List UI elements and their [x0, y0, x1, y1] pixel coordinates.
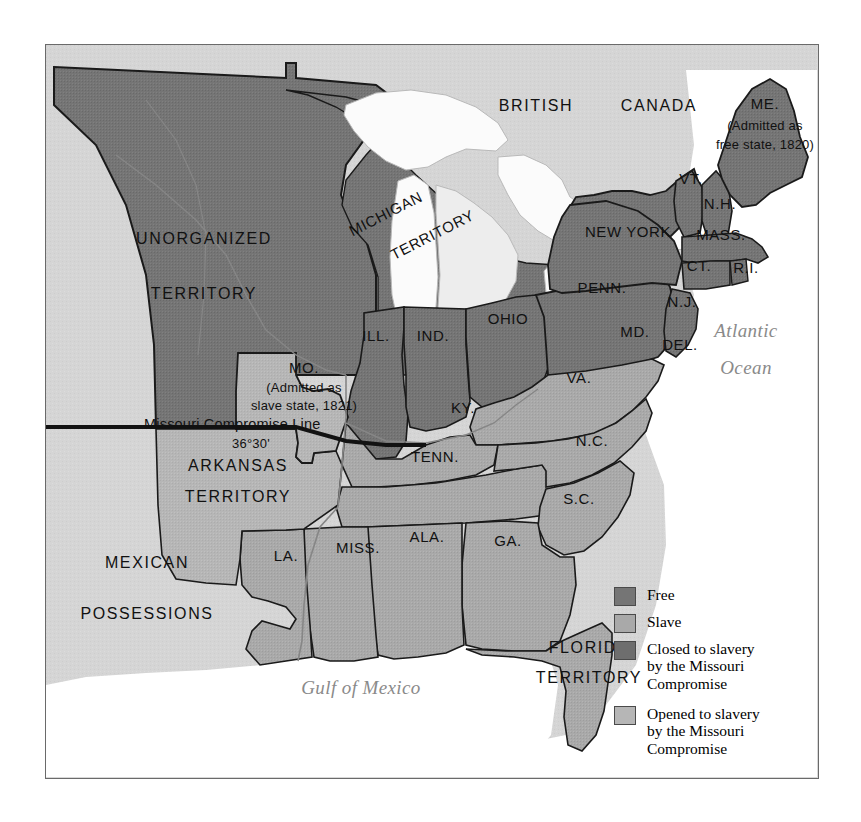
label-delaware: DEL.	[662, 336, 698, 353]
label-british-canada-line2: CANADA	[621, 97, 697, 114]
legend-swatch-opened	[614, 706, 636, 725]
label-missouri: MO.	[289, 359, 319, 376]
label-rhode-island: R.I.	[733, 259, 759, 276]
label-mexican-possessions-line1: MEXICAN	[105, 554, 189, 571]
label-unorganized-territory-line1: UNORGANIZED	[136, 230, 272, 247]
label-illinois: ILL.	[362, 327, 389, 344]
label-missouri-note-2: slave state, 1821)	[251, 398, 357, 413]
label-new-jersey: N.J.	[667, 293, 696, 310]
legend-item-slave: Slave	[614, 613, 814, 633]
label-tennessee: TENN.	[411, 448, 459, 465]
label-louisiana: LA.	[274, 547, 298, 564]
label-atlantic-ocean-line2: Ocean	[720, 357, 772, 378]
label-pennsylvania: PENN.	[578, 279, 627, 296]
legend-label-closed: Closed to slavery by the Missouri Compro…	[647, 640, 755, 692]
legend-label-slave: Slave	[647, 613, 681, 630]
legend-label-free: Free	[647, 586, 675, 603]
legend-item-free: Free	[614, 586, 814, 606]
label-new-hampshire: N.H.	[704, 195, 736, 212]
label-arkansas-territory-line2: TERRITORY	[185, 488, 291, 505]
label-atlantic-ocean-line1: Atlantic	[712, 320, 778, 341]
legend-swatch-free	[614, 587, 636, 606]
label-missouri-note-1: (Admitted as	[266, 380, 342, 395]
legend-swatch-closed	[614, 641, 636, 660]
label-virginia: VA.	[567, 369, 592, 386]
label-british-canada-line1: BRITISH	[499, 97, 573, 114]
label-new-york: NEW YORK	[585, 223, 671, 240]
label-gulf-of-mexico: Gulf of Mexico	[301, 677, 421, 698]
label-kentucky: KY.	[451, 399, 475, 416]
legend-item-closed: Closed to slavery by the Missouri Compro…	[614, 640, 814, 692]
label-mexican-possessions-line2: POSSESSIONS	[80, 605, 213, 622]
map-screenshot: UNORGANIZED TERRITORY MICHIGAN TERRITORY…	[0, 0, 861, 822]
label-arkansas-territory-line1: ARKANSAS	[188, 457, 288, 474]
label-indiana: IND.	[417, 327, 449, 344]
label-vermont: VT.	[679, 170, 702, 187]
legend-swatch-slave	[614, 614, 636, 633]
label-ohio: OHIO	[488, 310, 529, 327]
label-compromise-latitude: 36°30'	[232, 436, 270, 451]
label-maine-note-2: free state, 1820)	[716, 137, 814, 152]
label-maryland: MD.	[620, 323, 649, 340]
label-georgia: GA.	[494, 532, 522, 549]
map-legend: Free Slave Closed to slavery by the Miss…	[614, 586, 814, 764]
label-connecticut: CT.	[687, 257, 711, 274]
label-maine-note-1: (Admitted as	[727, 118, 803, 133]
label-missouri-compromise-line: Missouri Compromise Line	[144, 416, 320, 432]
legend-label-opened: Opened to slavery by the Missouri Compro…	[647, 705, 760, 757]
label-unorganized-territory-line2: TERRITORY	[151, 285, 257, 302]
label-south-carolina: S.C.	[563, 490, 595, 507]
label-mississippi: MISS.	[336, 539, 380, 556]
label-alabama: ALA.	[410, 528, 445, 545]
legend-item-opened: Opened to slavery by the Missouri Compro…	[614, 705, 814, 757]
label-north-carolina: N.C.	[576, 432, 608, 449]
label-massachusetts: MASS.	[696, 226, 746, 243]
label-maine: ME.	[751, 95, 779, 112]
map-frame: UNORGANIZED TERRITORY MICHIGAN TERRITORY…	[45, 44, 819, 779]
